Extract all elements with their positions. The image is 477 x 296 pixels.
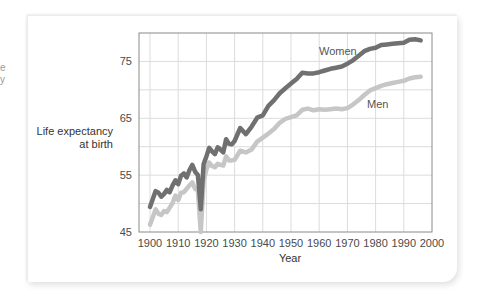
- men-series-label: Men: [367, 98, 388, 110]
- grid-lines: [139, 33, 432, 232]
- y-axis-title-line-2: at birth: [79, 138, 113, 150]
- x-tick-label: 1960: [307, 237, 331, 249]
- y-tick-label: 45: [120, 226, 132, 238]
- x-axis-ticks: 1900191019201930194019501960197019801990…: [138, 237, 444, 249]
- y-tick-label: 75: [120, 55, 132, 67]
- x-tick-label: 1920: [194, 237, 218, 249]
- x-tick-label: 1910: [166, 237, 190, 249]
- x-tick-label: 1950: [279, 237, 303, 249]
- women-series-label: Women: [319, 45, 357, 57]
- plot-frame: [139, 33, 432, 232]
- x-tick-label: 1970: [335, 237, 359, 249]
- y-tick-label: 55: [120, 169, 132, 181]
- x-tick-label: 1900: [138, 237, 162, 249]
- x-tick-label: 2000: [420, 237, 444, 249]
- y-axis-title-line-1: Life expectancy: [37, 125, 114, 137]
- x-tick-label: 1930: [222, 237, 246, 249]
- life-expectancy-chart: 45556575 1900191019201930194019501960197…: [0, 0, 477, 296]
- y-axis-ticks: 45556575: [120, 55, 132, 238]
- x-tick-label: 1990: [392, 237, 416, 249]
- y-tick-label: 65: [120, 112, 132, 124]
- x-axis-title: Year: [279, 252, 302, 264]
- x-tick-label: 1940: [251, 237, 275, 249]
- x-tick-label: 1980: [363, 237, 387, 249]
